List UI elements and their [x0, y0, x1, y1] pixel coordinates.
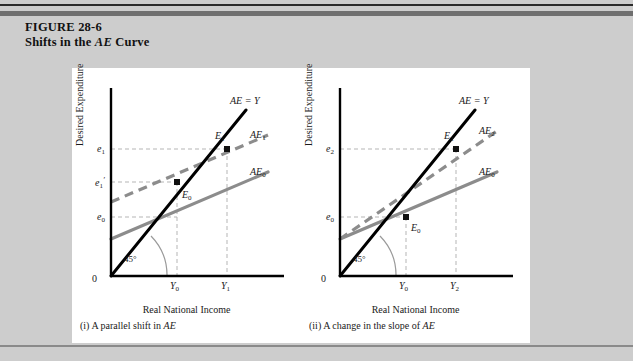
top-rule-thick	[0, 11, 633, 16]
y-tick-label-e0-i: e0	[97, 212, 105, 224]
caption-panel-ii: (ii) A change in the slope of AE	[309, 320, 435, 331]
curve-label-ae1: AE1	[250, 130, 266, 142]
figure-title: Shifts in the AE Curve	[25, 35, 150, 50]
x-axis-title-i: Real National Income	[72, 304, 301, 315]
equilibrium-marker-e2	[453, 146, 459, 152]
equilibrium-label-e0-ii: E0	[411, 223, 421, 235]
y-tick-label-e1-prime: e1′	[95, 177, 105, 190]
equilibrium-label-e1: E1	[215, 131, 225, 143]
equilibrium-label-e2: E2	[444, 131, 454, 143]
equilibrium-marker-e1	[224, 146, 230, 152]
curve-label-identity-i: AE = Y	[230, 96, 260, 106]
angle-label-i: 45°	[124, 254, 137, 264]
curve-label-identity-ii: AE = Y	[459, 96, 489, 106]
x-tick-label-y0-ii: Y0	[399, 281, 408, 293]
equilibrium-marker-e0-ii	[403, 214, 409, 220]
y-tick-label-e2: e2	[326, 144, 334, 156]
y-tick-label-e0-ii: e0	[326, 212, 334, 224]
angle-label-ii: 45°	[353, 254, 366, 264]
chart-panel-ii: Desired Expenditure Real National Income…	[301, 68, 530, 343]
figure-title-prefix: Shifts in the	[25, 35, 95, 49]
chart-ii-graphic	[301, 68, 530, 343]
x-tick-label-y1: Y1	[221, 281, 230, 293]
figure-page: FIGURE 28-6 Shifts in the AE Curve	[0, 0, 633, 361]
identity-line-ii	[340, 110, 475, 276]
curve-label-ae2: AE2	[479, 126, 495, 138]
chart-i-graphic	[72, 68, 301, 343]
y-axis-title-i: Desired Expenditure	[74, 64, 85, 146]
bottom-rule	[0, 345, 633, 347]
x-tick-label-y0-i: Y0	[170, 281, 179, 293]
angle-arc-i	[151, 236, 167, 276]
origin-label-i: 0	[92, 273, 97, 284]
curve-label-ae0-ii: AE0	[479, 167, 495, 179]
chart-panel-i: Desired Expenditure Real National Income…	[72, 68, 301, 343]
curve-label-ae0-i: AE0	[250, 167, 266, 179]
x-axis-title-ii: Real National Income	[301, 304, 530, 315]
plot-panel: Desired Expenditure Real National Income…	[72, 68, 530, 343]
x-tick-label-y2: Y2	[450, 281, 459, 293]
caption-panel-i: (i) A parallel shift in AE	[80, 320, 176, 331]
y-tick-label-e1: e1	[97, 144, 105, 156]
equilibrium-marker-e0-i	[174, 179, 180, 185]
figure-title-suffix: Curve	[112, 35, 150, 49]
origin-label-ii: 0	[321, 273, 326, 284]
figure-number: FIGURE 28-6	[25, 20, 150, 35]
top-rule-thin	[0, 4, 633, 6]
figure-heading: FIGURE 28-6 Shifts in the AE Curve	[25, 20, 150, 50]
angle-arc-ii	[380, 236, 396, 276]
equilibrium-label-e0-i: E0	[182, 190, 192, 202]
prime-mark: ′	[103, 176, 105, 185]
figure-title-italic: AE	[95, 35, 112, 49]
y-axis-title-ii: Desired Expenditure	[303, 64, 314, 146]
